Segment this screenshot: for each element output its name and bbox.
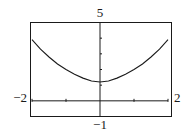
graph-plot: 5 −1 −2 2 — [0, 0, 190, 131]
ymax-label: 5 — [97, 5, 104, 20]
ymin-label: −1 — [93, 117, 107, 131]
xmax-label: 2 — [174, 90, 181, 105]
xmin-label: −2 — [13, 90, 27, 105]
